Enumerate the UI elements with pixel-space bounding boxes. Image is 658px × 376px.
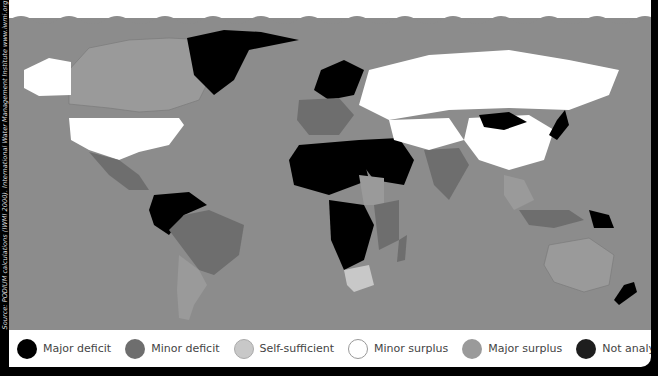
region-sudan: [359, 175, 384, 205]
major-deficit-swatch-icon: [17, 339, 37, 359]
region-southeast-asia: [504, 175, 534, 210]
region-new-zealand: [614, 282, 637, 305]
region-east-africa: [374, 200, 399, 250]
minor-surplus-swatch-icon: [348, 339, 368, 359]
map-panel: Major deficit Minor deficit Self-suffici…: [9, 0, 651, 367]
region-papua: [589, 210, 614, 228]
legend-label: Minor surplus: [374, 342, 448, 355]
region-north-africa: [289, 140, 369, 195]
region-usa: [69, 118, 184, 160]
region-russia: [359, 50, 619, 120]
region-india: [424, 148, 469, 200]
legend-label: Self-sufficient: [260, 342, 335, 355]
region-central-africa: [329, 200, 374, 270]
region-scandinavia: [314, 60, 364, 100]
region-indonesia: [519, 210, 584, 228]
legend-label: Major deficit: [43, 342, 111, 355]
world-map: [9, 0, 651, 330]
region-western-europe: [297, 98, 354, 135]
region-japan: [549, 110, 569, 140]
legend-item-major-deficit: Major deficit: [17, 339, 111, 359]
legend-label: Minor deficit: [151, 342, 219, 355]
major-surplus-swatch-icon: [462, 339, 482, 359]
legend-item-major-surplus: Major surplus: [462, 339, 562, 359]
legend-item-minor-deficit: Minor deficit: [125, 339, 219, 359]
legend: Major deficit Minor deficit Self-suffici…: [9, 330, 651, 367]
legend-label: Major surplus: [488, 342, 562, 355]
source-credit: Source: PODIUM calculations (IWMI 2000).…: [0, 0, 9, 330]
legend-label: Not analysed: [602, 342, 651, 355]
region-australia: [544, 238, 614, 292]
legend-item-self-sufficient: Self-sufficient: [234, 339, 335, 359]
minor-deficit-swatch-icon: [125, 339, 145, 359]
legend-item-minor-surplus: Minor surplus: [348, 339, 448, 359]
region-south-africa: [344, 265, 374, 292]
not-analysed-swatch-icon: [576, 339, 596, 359]
source-text: Source: PODIUM calculations (IWMI 2000).…: [1, 1, 9, 330]
self-sufficient-swatch-icon: [234, 339, 254, 359]
region-alaska: [24, 58, 71, 96]
legend-item-not-analysed: Not analysed: [576, 339, 651, 359]
